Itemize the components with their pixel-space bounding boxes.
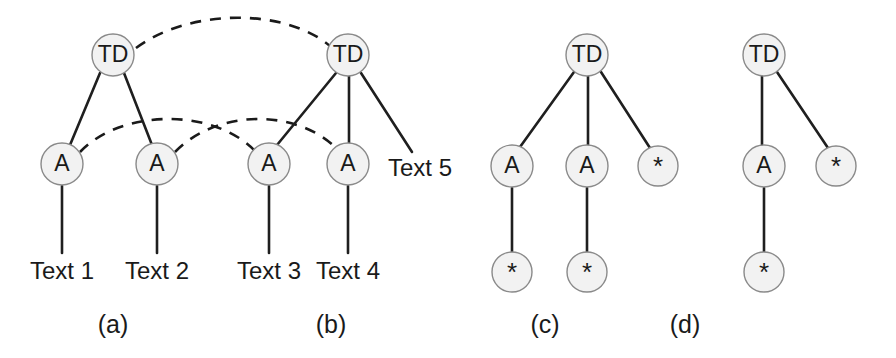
dashed-link-td-to-td [136, 18, 330, 48]
a-edge-root-left [70, 73, 100, 145]
a-leaf-text1: Text 1 [30, 257, 94, 284]
tree-node-d-star-right[interactable]: * [816, 146, 856, 186]
c-edge-root-left [520, 72, 574, 147]
d-edge-root-right [777, 72, 828, 148]
b-td-root-label: TD [333, 41, 364, 67]
tree-node-d-star-under-mid[interactable]: * [744, 252, 784, 292]
tree-node-b-a-mid[interactable]: A [327, 143, 369, 185]
d-star-right-label: * [831, 151, 841, 181]
c-star-under-mid-label: * [582, 257, 592, 287]
panel-caption-c: (c) [530, 310, 559, 338]
panel-caption-a: (a) [98, 310, 129, 338]
tree-node-c-star-right[interactable]: * [638, 146, 678, 186]
tree-node-c-star-under-left[interactable]: * [492, 252, 532, 292]
c-a-mid-label: A [579, 152, 595, 178]
b-a-mid-label: A [340, 150, 356, 176]
c-star-under-left-label: * [507, 257, 517, 287]
panel-caption-layer: (a)(b)(c)(d) [98, 310, 701, 338]
tree-node-a-a-left[interactable]: A [41, 143, 83, 185]
a-a-left-label: A [54, 150, 70, 176]
d-td-root-label: TD [749, 41, 780, 67]
tree-node-b-a-left[interactable]: A [248, 143, 290, 185]
tree-node-a-td-root[interactable]: TD [92, 34, 134, 76]
tree-node-c-a-mid[interactable]: A [566, 145, 608, 187]
leaf-text-layer: Text 1Text 2Text 3Text 4Text 5 [30, 154, 452, 284]
tree-node-b-td-root[interactable]: TD [327, 34, 369, 76]
tree-node-c-star-under-mid[interactable]: * [567, 252, 607, 292]
b-edge-root-left [277, 73, 336, 145]
a-leaf-text2: Text 2 [125, 257, 189, 284]
c-td-root-label: TD [572, 41, 603, 67]
b-leaf-text4: Text 4 [316, 257, 380, 284]
b-a-left-label: A [261, 150, 277, 176]
tree-node-d-td-root[interactable]: TD [743, 34, 785, 76]
a-a-right-label: A [149, 150, 165, 176]
a-td-root-label: TD [98, 41, 129, 67]
c-star-right-label: * [653, 151, 663, 181]
panel-caption-b: (b) [316, 310, 347, 338]
c-a-left-label: A [504, 152, 520, 178]
b-edge-root-text5 [361, 73, 412, 152]
tree-node-c-a-left[interactable]: A [491, 145, 533, 187]
b-leaf-text3: Text 3 [237, 257, 301, 284]
figure-canvas: TDAATDAATDAA***TDA**Text 1Text 2Text 3Te… [0, 0, 896, 358]
d-a-mid-label: A [756, 152, 772, 178]
a-edge-root-right [124, 73, 152, 145]
tree-node-c-td-root[interactable]: TD [566, 34, 608, 76]
tree-node-a-a-right[interactable]: A [136, 143, 178, 185]
d-star-under-mid-label: * [759, 257, 769, 287]
tree-node-d-a-mid[interactable]: A [743, 145, 785, 187]
panel-caption-d: (d) [670, 310, 701, 338]
c-edge-root-right [601, 72, 650, 148]
b-leaf-text5: Text 5 [388, 154, 452, 181]
figure-container: TDAATDAATDAA***TDA**Text 1Text 2Text 3Te… [0, 0, 896, 358]
